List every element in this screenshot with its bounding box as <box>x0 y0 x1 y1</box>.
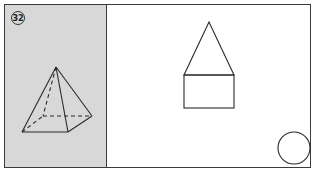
pyramid-edge <box>56 67 68 132</box>
hidden-edge <box>43 67 56 116</box>
circle-shape <box>278 132 310 164</box>
hidden-edge <box>22 116 43 132</box>
pyramid-edge <box>56 67 92 116</box>
triangle-shape <box>184 22 234 75</box>
front-view-house-shape <box>184 22 234 108</box>
pyramid-edge <box>22 67 56 132</box>
rectangle-shape <box>184 75 234 108</box>
pyramid-edge <box>68 116 92 132</box>
drawing-canvas <box>0 0 316 172</box>
hidden-edges <box>22 67 92 132</box>
square-pyramid-solid <box>22 67 92 132</box>
